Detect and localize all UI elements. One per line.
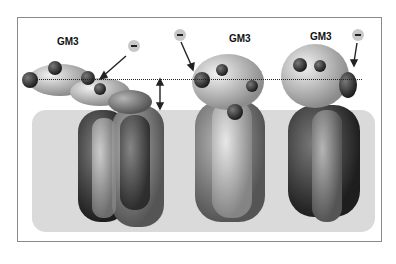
gm3-label-right: GM3 xyxy=(310,31,332,42)
gm3-label-left: GM3 xyxy=(57,36,79,47)
gm3-label-middle: GM3 xyxy=(229,33,251,44)
negative-charge-icon xyxy=(128,40,140,52)
gm3-headgroup-left xyxy=(22,61,152,114)
membrane-surface-reference-line xyxy=(36,79,362,80)
protein-left xyxy=(78,105,164,227)
negative-charge-icon xyxy=(174,29,186,41)
protein-right xyxy=(281,44,360,222)
negative-charge-icon xyxy=(352,29,364,41)
